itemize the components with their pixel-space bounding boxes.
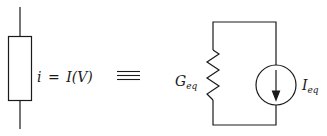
source-label: Ieq [301,77,319,95]
equivalence-symbol [117,72,140,80]
element-box [9,37,32,101]
resistor-label: Geq [175,73,198,91]
equivalent-circuit [207,22,296,125]
element-equation: i = I(V) [37,69,93,85]
nonlinear-element [9,7,32,129]
current-arrow-head-icon [273,91,280,100]
resistor-zigzag [207,50,219,100]
bottom-wire [213,100,276,125]
circuit-diagram: i = I(V) Geq Ieq [0,0,327,136]
top-wire [213,22,276,65]
